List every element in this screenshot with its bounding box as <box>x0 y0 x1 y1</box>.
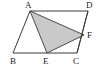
vertex-label-f: F <box>87 31 92 40</box>
vertex-label-d: D <box>86 1 93 10</box>
geometry-figure: A D F B E C <box>0 0 103 70</box>
vertex-label-a: A <box>25 1 32 10</box>
vertex-label-c: C <box>73 57 79 66</box>
vertex-label-b: B <box>10 57 16 66</box>
vertex-label-e: E <box>43 57 49 66</box>
